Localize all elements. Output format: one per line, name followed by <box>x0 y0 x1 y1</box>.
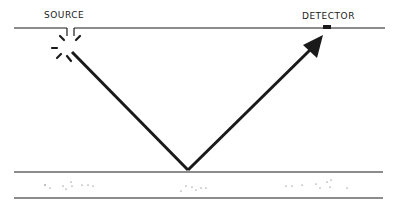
lower-layer-band <box>14 172 383 198</box>
detector-icon <box>323 25 331 29</box>
sediment-dots <box>44 179 347 191</box>
reflection-diagram <box>0 0 397 207</box>
incident-ray <box>72 52 188 170</box>
reflected-ray-arrow <box>188 35 323 170</box>
top-surface-line <box>14 28 385 36</box>
